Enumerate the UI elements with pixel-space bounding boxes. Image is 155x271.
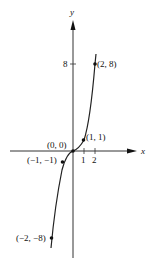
point-2-label: (2, 8) (97, 59, 117, 69)
x-axis-label: x (140, 146, 145, 156)
point-neg1-label: (−1, −1) (27, 155, 57, 165)
tick-x1-label: 1 (81, 155, 86, 165)
point-1 (82, 138, 86, 142)
y-axis-arrow-icon (71, 20, 76, 30)
tick-y8-label: 8 (63, 59, 68, 69)
point-1-label: (1, 1) (86, 132, 106, 142)
point-neg2 (50, 236, 54, 240)
cubic-graph: y x 8 1 2 (2, 8) (1, 1) (0, 0) (−1, −1) … (0, 0, 155, 271)
point-neg2-label: (−2, −8) (16, 233, 46, 243)
point-0 (71, 149, 75, 153)
point-neg1 (61, 160, 65, 164)
y-axis-label: y (69, 7, 74, 17)
point-0-label: (0, 0) (47, 140, 67, 150)
x-axis-arrow-icon (127, 149, 137, 154)
tick-x2-label: 2 (92, 155, 97, 165)
